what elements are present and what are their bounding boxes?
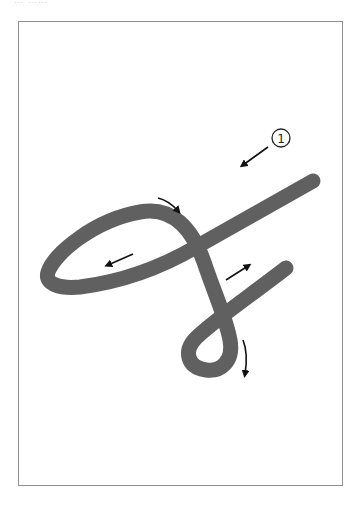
arrow-curve-down [243, 340, 246, 374]
step-number-badge: 1 [272, 129, 290, 147]
stroke-diagram: 1 [0, 0, 363, 505]
svg-text:1: 1 [277, 132, 285, 146]
arrow-up-right [226, 266, 248, 280]
glyph-stroke [47, 181, 313, 370]
arrow-left-inner [108, 254, 133, 265]
arrow-down-left-1 [243, 147, 268, 165]
